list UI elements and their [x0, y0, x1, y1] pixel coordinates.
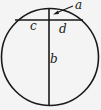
label-d: d	[59, 22, 67, 36]
label-b: b	[50, 52, 58, 66]
circle-chords-diagram: a c d b	[0, 0, 101, 110]
arrowhead-icon	[53, 11, 59, 15]
label-a: a	[75, 0, 82, 12]
label-c: c	[30, 19, 37, 33]
